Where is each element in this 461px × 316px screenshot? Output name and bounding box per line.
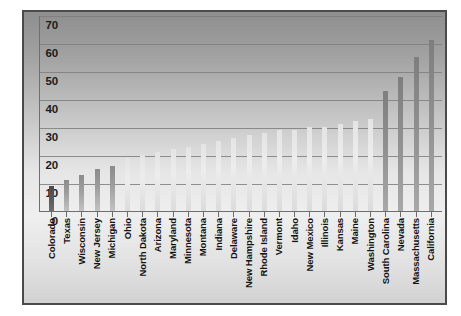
bar[interactable] bbox=[277, 130, 282, 211]
tick-mark bbox=[188, 212, 189, 217]
category-slot: Massachusetts bbox=[409, 218, 424, 302]
tick-mark bbox=[370, 212, 371, 217]
tick-mark bbox=[142, 212, 143, 217]
tick-slot bbox=[150, 212, 165, 217]
chart-figure-frame: 010203040506070 ColoradoTexasWisconsinNe… bbox=[22, 10, 447, 305]
bar[interactable] bbox=[79, 175, 84, 211]
category-label-minnesota: Minnesota bbox=[184, 218, 194, 264]
category-slot: North Dakota bbox=[135, 218, 150, 302]
tick-mark bbox=[279, 212, 280, 217]
bar-slot bbox=[363, 16, 378, 211]
category-label-maryland: Maryland bbox=[168, 218, 178, 259]
bar[interactable] bbox=[64, 180, 69, 211]
category-slot: Arizona bbox=[150, 218, 165, 302]
bar-slot bbox=[393, 16, 408, 211]
tick-mark bbox=[51, 212, 52, 217]
bar-slot bbox=[44, 16, 59, 211]
tick-slot bbox=[241, 212, 256, 217]
bar-slot bbox=[257, 16, 272, 211]
tick-mark bbox=[249, 212, 250, 217]
bar[interactable] bbox=[262, 133, 267, 211]
bar[interactable] bbox=[338, 124, 343, 211]
chart-container: 010203040506070 ColoradoTexasWisconsinNe… bbox=[0, 0, 461, 316]
tick-mark bbox=[400, 212, 401, 217]
bar[interactable] bbox=[414, 57, 419, 211]
tick-slot bbox=[196, 212, 211, 217]
category-slot: Illinois bbox=[317, 218, 332, 302]
tick-mark bbox=[157, 212, 158, 217]
bar[interactable] bbox=[49, 186, 54, 211]
bar[interactable] bbox=[292, 130, 297, 211]
bar-slot bbox=[302, 16, 317, 211]
bar[interactable] bbox=[383, 91, 388, 211]
bar[interactable] bbox=[186, 147, 191, 211]
tick-mark bbox=[416, 212, 417, 217]
bar[interactable] bbox=[110, 166, 115, 211]
bar-slot bbox=[272, 16, 287, 211]
category-slot: South Carolina bbox=[378, 218, 393, 302]
category-slot: Colorado bbox=[44, 218, 59, 302]
bar[interactable] bbox=[353, 121, 358, 211]
bar[interactable] bbox=[201, 144, 206, 211]
bar[interactable] bbox=[216, 141, 221, 211]
tick-mark bbox=[324, 212, 325, 217]
bar[interactable] bbox=[307, 127, 312, 211]
category-slot: Rhode Island bbox=[257, 218, 272, 302]
tick-slot bbox=[348, 212, 363, 217]
category-label-california: California bbox=[427, 218, 437, 261]
tick-mark bbox=[385, 212, 386, 217]
category-slot: Texas bbox=[59, 218, 74, 302]
tick-slot bbox=[166, 212, 181, 217]
category-slot: New Mexico bbox=[302, 218, 317, 302]
category-slot: Ohio bbox=[120, 218, 135, 302]
bar[interactable] bbox=[322, 127, 327, 211]
bar-slot bbox=[59, 16, 74, 211]
bar-series bbox=[40, 16, 442, 211]
tick-slot bbox=[287, 212, 302, 217]
category-label-montana: Montana bbox=[199, 218, 209, 256]
bar-slot bbox=[241, 16, 256, 211]
bar-slot bbox=[135, 16, 150, 211]
tick-mark bbox=[340, 212, 341, 217]
category-label-maine: Maine bbox=[351, 218, 361, 244]
category-slot: Michigan bbox=[105, 218, 120, 302]
tick-mark bbox=[431, 212, 432, 217]
category-slot: Idaho bbox=[287, 218, 302, 302]
category-slot: Maine bbox=[348, 218, 363, 302]
tick-mark bbox=[127, 212, 128, 217]
tick-mark bbox=[112, 212, 113, 217]
bar[interactable] bbox=[368, 119, 373, 211]
tick-slot bbox=[424, 212, 439, 217]
tick-slot bbox=[302, 212, 317, 217]
bar[interactable] bbox=[247, 135, 252, 211]
category-label-new-jersey: New Jersey bbox=[92, 218, 102, 269]
category-label-idaho: Idaho bbox=[290, 218, 300, 243]
bar[interactable] bbox=[398, 77, 403, 211]
bar[interactable] bbox=[140, 155, 145, 211]
category-label-illinois: Illinois bbox=[320, 218, 330, 247]
bar-slot bbox=[424, 16, 439, 211]
bar[interactable] bbox=[171, 149, 176, 211]
category-label-new-mexico: New Mexico bbox=[305, 218, 315, 271]
bar[interactable] bbox=[155, 152, 160, 211]
category-slot: California bbox=[424, 218, 439, 302]
tick-slot bbox=[135, 212, 150, 217]
bar-slot bbox=[181, 16, 196, 211]
tick-mark bbox=[355, 212, 356, 217]
bar[interactable] bbox=[429, 40, 434, 211]
category-label-south-carolina: South Carolina bbox=[381, 218, 391, 284]
plot-area bbox=[39, 16, 442, 212]
tick-slot bbox=[409, 212, 424, 217]
tick-mark bbox=[66, 212, 67, 217]
bar[interactable] bbox=[125, 158, 130, 211]
tick-mark bbox=[173, 212, 174, 217]
category-slot: Vermont bbox=[272, 218, 287, 302]
category-label-colorado: Colorado bbox=[47, 218, 57, 259]
bar-slot bbox=[287, 16, 302, 211]
bar[interactable] bbox=[95, 169, 100, 211]
category-label-arizona: Arizona bbox=[153, 218, 163, 252]
category-label-ohio: Ohio bbox=[123, 218, 133, 239]
category-label-vermont: Vermont bbox=[275, 218, 285, 255]
bar[interactable] bbox=[231, 138, 236, 211]
category-label-texas: Texas bbox=[62, 218, 72, 244]
